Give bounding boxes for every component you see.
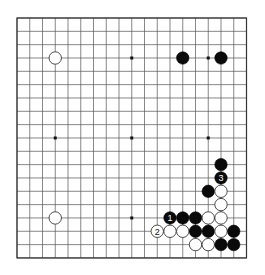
white-stone	[215, 185, 227, 197]
white-stone	[215, 225, 227, 237]
white-stone-circle	[164, 225, 176, 237]
white-stone-circle	[215, 185, 227, 197]
white-stone-circle	[49, 52, 61, 64]
white-stone	[177, 225, 189, 237]
star-point	[207, 136, 210, 139]
move-number-label: 2	[155, 227, 160, 237]
white-stone	[189, 238, 201, 250]
star-point	[207, 56, 210, 59]
star-point	[130, 216, 133, 219]
black-stone	[215, 52, 227, 64]
white-stone-circle	[215, 198, 227, 210]
black-stone	[215, 238, 227, 250]
black-stone-circle	[177, 212, 189, 224]
white-stone-circle	[49, 212, 61, 224]
black-stone-circle	[215, 52, 227, 64]
black-stone-circle	[228, 238, 240, 250]
black-stone-circle	[189, 225, 201, 237]
black-stone	[177, 52, 189, 64]
black-stone	[202, 225, 214, 237]
white-stone-circle	[215, 212, 227, 224]
black-stone-circle	[189, 212, 201, 224]
white-stone	[202, 238, 214, 250]
star-point	[130, 136, 133, 139]
white-stone	[215, 212, 227, 224]
white-stone	[215, 198, 227, 210]
white-stone-circle	[202, 238, 214, 250]
white-stone-circle	[177, 225, 189, 237]
white-stone	[49, 52, 61, 64]
black-stone-circle	[177, 52, 189, 64]
black-stone-circle	[202, 185, 214, 197]
white-stone-circle	[215, 225, 227, 237]
white-stone	[164, 225, 176, 237]
move-number-label: 3	[218, 173, 223, 183]
black-stone: 1	[164, 212, 176, 224]
white-stone: 2	[151, 225, 163, 237]
black-stone-circle	[228, 225, 240, 237]
black-stone	[177, 212, 189, 224]
white-stone-circle	[189, 238, 201, 250]
black-stone	[215, 158, 227, 170]
black-stone	[202, 185, 214, 197]
black-stone	[189, 212, 201, 224]
black-stone-circle	[215, 238, 227, 250]
black-stone	[228, 225, 240, 237]
white-stone-circle	[202, 212, 214, 224]
white-stone	[202, 212, 214, 224]
white-stone	[49, 212, 61, 224]
move-number-label: 1	[167, 213, 172, 223]
star-point	[54, 136, 57, 139]
black-stone-circle	[202, 225, 214, 237]
black-stone: 3	[215, 172, 227, 184]
black-stone	[189, 225, 201, 237]
go-board[interactable]: 312	[0, 0, 265, 275]
black-stone-circle	[215, 158, 227, 170]
black-stone	[228, 238, 240, 250]
star-point	[130, 56, 133, 59]
